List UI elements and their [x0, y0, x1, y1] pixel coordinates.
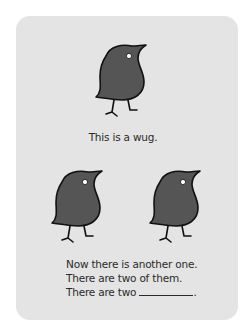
answer-blank — [139, 285, 193, 296]
wug-bird-icon — [146, 168, 208, 244]
wug-bird-icon — [92, 42, 154, 118]
prompt-line-2: There are two of them. — [66, 272, 197, 286]
wug-plural-prompt: Now there is another one. There are two … — [66, 258, 197, 300]
wug-caption: This is a wug. — [0, 131, 246, 145]
wug-bird-icon — [48, 168, 110, 244]
prompt-line-3: There are two . — [66, 285, 197, 300]
blank-period: . — [193, 286, 196, 298]
prompt-line-1: Now there is another one. — [66, 258, 197, 272]
prompt-line-3-text: There are two — [66, 286, 136, 298]
